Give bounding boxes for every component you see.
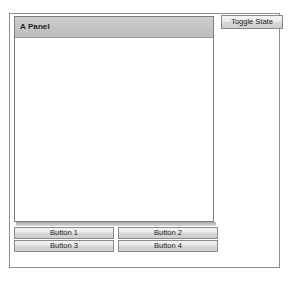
panel-body	[15, 38, 213, 221]
panel-shadow	[16, 222, 216, 226]
toggle-state-button[interactable]: Toggle State	[221, 15, 283, 29]
panel-a: A Panel	[14, 16, 214, 222]
button-4[interactable]: Button 4	[118, 240, 218, 252]
button-1[interactable]: Button 1	[14, 227, 114, 239]
button-3[interactable]: Button 3	[14, 240, 114, 252]
app-root: A Panel Button 1 Button 2 Button 3 Butto…	[0, 0, 290, 283]
button-2[interactable]: Button 2	[118, 227, 218, 239]
button-grid: Button 1 Button 2 Button 3 Button 4	[14, 227, 220, 252]
window-frame: A Panel Button 1 Button 2 Button 3 Butto…	[9, 13, 280, 268]
panel-header: A Panel	[15, 17, 213, 38]
panel-title: A Panel	[20, 23, 50, 31]
